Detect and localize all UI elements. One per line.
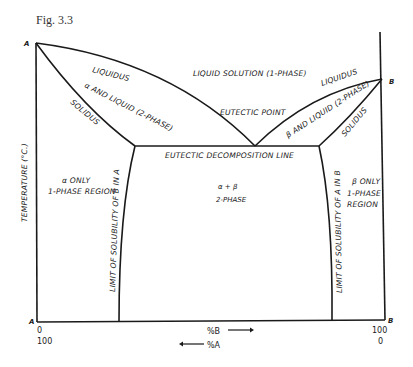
label-two-phase: 2-PHASE bbox=[216, 196, 247, 204]
corner-b-top: B bbox=[389, 78, 394, 86]
x-right-bottom-value: 0 bbox=[378, 337, 383, 346]
label-alpha-liquid: α AND LIQUID (2-PHASE) bbox=[83, 81, 174, 134]
corner-a-top: A bbox=[23, 40, 29, 48]
label-alpha-beta: α + β bbox=[218, 183, 238, 191]
arrow-right-icon bbox=[250, 328, 254, 333]
label-eutectic-point: EUTECTIC POINT bbox=[220, 108, 287, 117]
label-alpha-region: 1-PHASE REGION bbox=[48, 187, 116, 196]
bottom-axis bbox=[37, 320, 385, 322]
label-liquidus-right: LIQUIDUS bbox=[320, 67, 359, 88]
label-alpha-only: α ONLY bbox=[62, 176, 92, 185]
left-axis bbox=[36, 43, 37, 322]
label-eutectic-line: EUTECTIC DECOMPOSITION LINE bbox=[165, 151, 294, 160]
label-beta-only: β ONLY bbox=[352, 177, 381, 186]
x-left-top-value: 0 bbox=[37, 326, 42, 335]
arrow-left-icon bbox=[179, 342, 183, 347]
x-left-bottom-value: 100 bbox=[37, 337, 52, 346]
label-beta-region: REGION bbox=[347, 200, 378, 209]
label-beta-1phase: 1-PHASE bbox=[347, 189, 381, 198]
solvus-left-curve bbox=[119, 146, 135, 322]
x-right-top-value: 100 bbox=[372, 326, 387, 335]
label-liquid-solution: LIQUID SOLUTION (1-PHASE) bbox=[193, 69, 307, 78]
solvus-right-curve bbox=[319, 146, 332, 320]
phase-diagram: A B A B LIQUIDUS α AND LIQUID (2-PHASE) … bbox=[0, 0, 413, 367]
solidus-left-curve bbox=[36, 43, 135, 146]
y-axis-label: TEMPERATURE (°C.) bbox=[20, 143, 29, 222]
corner-a-bottom: A bbox=[28, 318, 34, 326]
x-label-percent-a: %A bbox=[207, 341, 221, 350]
right-axis bbox=[380, 32, 385, 320]
liquidus-left-curve bbox=[36, 43, 255, 146]
label-solubility-a-in-b: LIMIT OF SOLUBILITY OF A IN B bbox=[333, 170, 344, 293]
corner-b-bottom: B bbox=[388, 317, 393, 325]
label-liquidus-left: LIQUIDUS bbox=[92, 65, 131, 83]
x-label-percent-b: %B bbox=[207, 327, 220, 336]
